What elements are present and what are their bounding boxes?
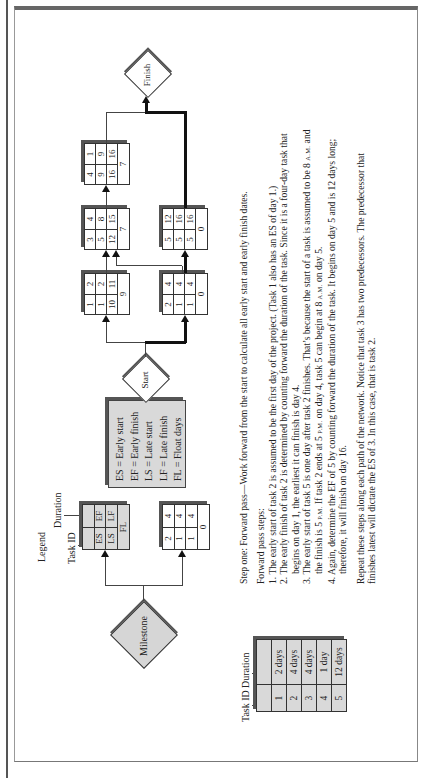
arrow-icon xyxy=(112,250,120,257)
milestone-connector xyxy=(143,586,144,601)
step-2-line-2: begins on day 1, the earliest it can fin… xyxy=(290,24,301,584)
duration-table: 1 2 days 2 4 days 3 4 days 4 1 day 5 12 … xyxy=(256,639,347,712)
explanation-text: Step one: Forward pass—Work forward from… xyxy=(238,24,377,584)
step-3-text: 3. The early start of task 5 is one day … xyxy=(301,163,312,584)
milestone-branch xyxy=(105,585,182,586)
definition-fl: FL = Float days xyxy=(171,407,186,481)
header-id-cell xyxy=(257,685,272,712)
task2-to-task3-stub xyxy=(182,266,183,273)
step-4-line-2: therefore, it will finish on day 16. xyxy=(337,24,348,584)
task-lf-cell: 16 xyxy=(107,144,118,164)
definition-ls: LS = Late start xyxy=(142,407,157,481)
task4-to-finish-line xyxy=(106,113,107,143)
definition-ef: EF = Early finish xyxy=(128,407,143,481)
legend-duration-callout xyxy=(64,515,84,516)
table-row: 2 4 days xyxy=(287,640,302,712)
milestone-to-example-line xyxy=(182,556,183,586)
task-ef-cell: 4 xyxy=(175,505,187,527)
legend-ef-cell: EF xyxy=(95,505,107,527)
duration-table-header-row xyxy=(257,640,272,712)
task-fl-cell: 0 xyxy=(196,274,207,314)
step-one-heading: Step one: Forward pass—Work forward from… xyxy=(238,24,249,584)
task-box-5: 5 12 5 16 5 16 0 xyxy=(162,208,208,250)
duration-cell: 4 days xyxy=(287,640,302,685)
task-box-2: 2 4 1 4 1 4 0 xyxy=(162,273,208,315)
step-3-text: on day 4, task 5 can begin at 8 xyxy=(313,302,324,421)
step-4-line-1: 4. Again, determine the EF of 5 by count… xyxy=(326,24,337,584)
arrow-icon xyxy=(102,315,110,322)
table-row: 5 12 days xyxy=(332,640,347,712)
duration-cell: 4 days xyxy=(302,640,317,685)
legend-lf-cell: LF xyxy=(106,505,118,527)
start-node: Start xyxy=(122,357,168,403)
task3-to-task4-line xyxy=(106,190,107,208)
task-fl-cell: 0 xyxy=(196,209,207,249)
task-ls-cell: 1 xyxy=(186,527,198,549)
task-id-cell: 5 xyxy=(332,685,347,712)
top-rule xyxy=(6,0,8,778)
task-dur-cell: 4 xyxy=(85,209,96,229)
time-am: A.M. xyxy=(316,284,323,299)
step-3-line-1: 3. The early start of task 5 is one day … xyxy=(301,24,313,584)
start-to-task1-line xyxy=(106,321,107,343)
legend-box: ES EF LS LF FL xyxy=(82,504,130,550)
task-dur-cell: 1 xyxy=(85,144,96,164)
legend-fl-cell: FL xyxy=(118,505,130,549)
milestone-node: Milestone xyxy=(108,601,178,671)
legend-ls-cell: LS xyxy=(106,527,118,549)
task-id-cell: 4 xyxy=(85,164,96,184)
task-dur-cell: 2 xyxy=(85,274,96,294)
arrow-icon xyxy=(102,250,110,257)
duration-cell: 12 days xyxy=(332,640,347,685)
example-task-box: 2 4 1 4 1 4 0 xyxy=(162,504,210,550)
time-pm: P.M. xyxy=(316,421,323,434)
start-branch-upper xyxy=(106,342,146,343)
task-ls-cell: 5 xyxy=(185,229,196,249)
step-1: 1. The early start of task 2 is assumed … xyxy=(267,24,278,584)
forward-pass-heading: Forward pass steps: xyxy=(255,24,266,584)
repeat-line-1: Repeat these steps along each path of th… xyxy=(355,24,366,584)
arrow-icon xyxy=(102,185,110,192)
task-dur-cell: 12 xyxy=(163,209,174,229)
table-row: 3 4 days xyxy=(302,640,317,712)
milestone-label: Milestone xyxy=(108,601,178,671)
task-id-cell: 5 xyxy=(163,229,174,249)
legend-definitions: ES = Early start EF = Early finish LS = … xyxy=(108,400,186,488)
task-ef-cell: 16 xyxy=(174,209,185,229)
task-id-cell: 1 xyxy=(85,294,96,314)
task4-to-finish-vertical xyxy=(106,112,146,113)
task-ef-cell: 4 xyxy=(174,274,185,294)
task-ef-cell: 9 xyxy=(96,144,107,164)
task-fl-cell: 7 xyxy=(118,144,129,184)
arrow-icon xyxy=(178,550,186,557)
task-es-cell: 5 xyxy=(96,229,107,249)
task5-to-finish-line xyxy=(184,111,187,208)
task-id-cell: 3 xyxy=(302,685,317,712)
start-connector xyxy=(145,343,146,357)
task-lf-cell: 11 xyxy=(107,274,118,294)
task-ls-cell: 1 xyxy=(185,294,196,314)
document-page: Legend Task ID Duration ES EF LS LF FL 2… xyxy=(0,0,422,778)
step-3-text: the finish is 5 xyxy=(313,522,324,574)
task2-to-task3-vertical xyxy=(116,265,182,266)
duration-table-duration-label: Duration xyxy=(240,652,251,688)
task-fl-cell: 0 xyxy=(198,505,210,549)
start-branch-critical xyxy=(145,341,186,344)
task-dur-cell: 4 xyxy=(163,274,174,294)
task-ls-cell: 12 xyxy=(107,229,118,249)
task-lf-cell: 4 xyxy=(185,274,196,294)
step-3-line-2: the finish is 5 P.M. If task 2 ends at 5… xyxy=(313,24,325,584)
duration-cell: 2 days xyxy=(272,640,287,685)
task-id-cell: 2 xyxy=(163,294,174,314)
task-es-cell: 5 xyxy=(174,229,185,249)
table-row: 4 1 day xyxy=(317,640,332,712)
task-box-1: 1 2 1 2 10 11 9 xyxy=(84,273,130,315)
task-lf-cell: 4 xyxy=(186,505,198,527)
time-am: A.M. xyxy=(304,146,311,161)
start-to-task2-line xyxy=(184,321,187,343)
legend-title: Legend xyxy=(36,532,47,562)
start-label: Start xyxy=(122,357,168,403)
duration-table-task-id-label: Task ID xyxy=(240,690,251,722)
legend-es-cell: ES xyxy=(95,527,107,549)
task-box-4: 4 1 9 9 16 16 7 xyxy=(84,143,130,185)
